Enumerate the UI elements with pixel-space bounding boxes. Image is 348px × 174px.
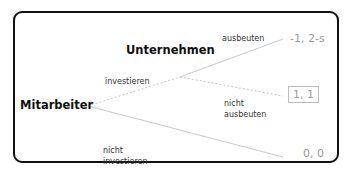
payoff-nicht-ausbeuten-highlighted: 1, 1 bbox=[288, 86, 319, 103]
action-nicht-ausbeuten-line2: ausbeuten bbox=[224, 109, 266, 120]
action-nicht-investieren-line1: nicht bbox=[103, 145, 148, 156]
edge-nicht-ausbeuten bbox=[180, 77, 283, 96]
player-unternehmen: Unternehmen bbox=[126, 43, 215, 57]
action-nicht-investieren: nicht investieren bbox=[103, 145, 148, 167]
player-mitarbeiter: Mitarbeiter bbox=[20, 98, 93, 112]
action-nicht-investieren-line2: investieren bbox=[103, 156, 148, 167]
payoff-ausbeuten: -1, 2-s bbox=[290, 32, 325, 45]
action-investieren: investieren bbox=[105, 76, 150, 87]
action-nicht-ausbeuten-line1: nicht bbox=[224, 98, 266, 109]
action-nicht-ausbeuten: nicht ausbeuten bbox=[224, 98, 266, 120]
action-ausbeuten: ausbeuten bbox=[222, 33, 264, 44]
payoff-nicht-investieren: 0, 0 bbox=[303, 147, 324, 160]
